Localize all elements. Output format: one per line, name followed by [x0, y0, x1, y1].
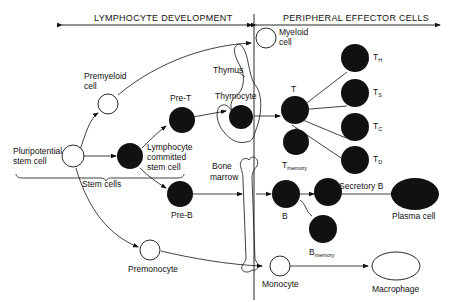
pre-b-label: Pre-B: [171, 210, 193, 220]
bone-label-line1: Bone: [212, 161, 232, 171]
cell-premonocyte: Premonocyte: [128, 240, 178, 274]
secretory-b-label: Secretory B: [339, 181, 384, 191]
cell-t: T: [281, 84, 309, 124]
cell-thymocyte: Thymocyte: [215, 91, 257, 129]
premyeloid-label-1: Premyeloid: [84, 71, 127, 81]
cell-t-d: TD: [341, 146, 382, 174]
arrow-pluri-to-premyeloid: [80, 113, 98, 150]
cell-myeloid: Myeloid cell: [256, 27, 309, 48]
b-label: B: [282, 211, 288, 221]
cell-t-h: TH: [341, 44, 382, 72]
cell-plasma: Plasma cell: [391, 178, 439, 221]
cell-b-memory: Bmemory: [309, 215, 337, 258]
myeloid-label-1: Myeloid: [279, 27, 309, 37]
premonocyte-label: Premonocyte: [128, 264, 178, 274]
lymphocyte-development-heading: LYMPHOCYTE DEVELOPMENT: [94, 13, 233, 23]
stem-cells-label: Stem cells: [82, 179, 121, 189]
pluripotential-label-2: stem cell: [13, 156, 47, 166]
myeloid-label-2: cell: [279, 37, 292, 47]
peripheral-effector-heading: PERIPHERAL EFFECTOR CELLS: [283, 13, 429, 23]
pluripotential-label-1: Pluripotential: [13, 146, 62, 156]
section-header: LYMPHOCYTE DEVELOPMENT PERIPHERAL EFFECT…: [62, 13, 440, 25]
t-s-label: TS: [373, 87, 382, 98]
t-h-label: TH: [373, 52, 382, 63]
arrow-pre-t-to-thymocyte: [193, 111, 226, 117]
lymphocyte-label-3: stem cell: [147, 162, 181, 172]
lymphocyte-label-1: Lymphocyte: [147, 142, 193, 152]
macrophage-label: Macrophage: [372, 284, 420, 294]
lymphocyte-development-diagram: LYMPHOCYTE DEVELOPMENT PERIPHERAL EFFECT…: [0, 0, 452, 302]
cell-pre-b: Pre-B: [167, 181, 193, 220]
cell-premyeloid: Premyeloid cell: [84, 71, 127, 114]
bone-label-line2: marrow: [210, 172, 239, 182]
pre-t-label: Pre-T: [170, 93, 191, 103]
plasma-label: Plasma cell: [392, 211, 436, 221]
cell-pluripotential: Pluripotential stem cell: [13, 145, 84, 167]
arrow-b-to-bmemory: [300, 200, 312, 216]
cell-monocyte: Monocyte: [262, 256, 299, 289]
cell-t-s: TS: [341, 79, 382, 107]
cell-secretory-b: Secretory B: [314, 178, 384, 206]
cell-lymphocyte-committed: Lymphocyte committed stem cell: [117, 142, 193, 172]
premyeloid-label-2: cell: [84, 81, 97, 91]
monocyte-label: Monocyte: [262, 279, 299, 289]
t-d-label: TD: [373, 154, 382, 165]
cell-pre-t: Pre-T: [169, 93, 195, 133]
cell-t-memory: Tmemory: [282, 129, 309, 171]
lymphocyte-label-2: committed: [147, 152, 186, 162]
t-label: T: [291, 84, 296, 94]
cell-b: B: [272, 180, 300, 221]
t-c-label: TC: [373, 121, 382, 132]
thymus-label: Thymus: [213, 65, 243, 75]
cell-t-c: TC: [341, 113, 382, 141]
b-memory-label: Bmemory: [309, 247, 335, 258]
bone-marrow-organ: [240, 157, 257, 272]
cell-macrophage: Macrophage: [372, 252, 420, 294]
t-memory-label: Tmemory: [282, 160, 307, 171]
thymocyte-label: Thymocyte: [215, 91, 257, 101]
